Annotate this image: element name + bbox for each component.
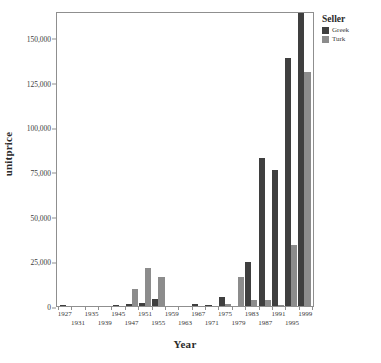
x-tick-label: 1999 — [298, 310, 312, 318]
x-tick-label: 1947 — [125, 319, 139, 327]
x-tick-label: 1927 — [58, 310, 72, 318]
year-group — [298, 13, 311, 306]
x-tick-label: 1975 — [218, 310, 232, 318]
y-tick-label: 25,000 — [30, 258, 51, 267]
legend-label: Turk — [332, 35, 345, 43]
year-group — [139, 13, 152, 306]
x-tick-label: 1963 — [178, 319, 192, 327]
x-tick-label: 1983 — [245, 310, 259, 318]
bar-turk-1975 — [225, 304, 231, 306]
bar-chart: unitprice 025,00050,00075,000100,000125,… — [0, 0, 381, 363]
year-group — [112, 13, 125, 306]
x-axis-title: Year — [56, 338, 314, 350]
bars-layer — [57, 13, 313, 306]
bar-greek-1945 — [113, 305, 119, 306]
x-tick-label: 1945 — [111, 310, 125, 318]
bar-greek-1991 — [272, 170, 278, 306]
year-group — [231, 13, 244, 306]
x-tick-label: 1935 — [84, 310, 98, 318]
legend-entry-turk[interactable]: Turk — [322, 35, 380, 43]
x-tick-label: 1959 — [165, 310, 179, 318]
y-tick-label: 75,000 — [30, 168, 51, 177]
x-tick-label: 1987 — [258, 319, 272, 327]
legend: Seller GreekTurk — [322, 14, 380, 44]
year-group — [192, 13, 205, 306]
y-tick-label: 50,000 — [30, 213, 51, 222]
year-group — [258, 13, 271, 306]
year-group — [59, 13, 72, 306]
legend-swatch-icon — [322, 27, 329, 34]
bar-greek-1967 — [192, 304, 198, 306]
x-axis-tick-labels: 1927193119351939194519471951195519591963… — [56, 307, 314, 339]
bar-turk-1995 — [291, 245, 297, 306]
x-tick-label: 1971 — [205, 319, 219, 327]
year-group — [245, 13, 258, 306]
bar-greek-1971 — [205, 305, 211, 306]
y-tick-label: 0 — [47, 303, 51, 312]
bar-turk-1983 — [251, 300, 257, 306]
legend-swatch-icon — [322, 36, 329, 43]
year-group — [271, 13, 284, 306]
year-group — [125, 13, 138, 306]
year-group — [99, 13, 112, 306]
bar-turk-1979 — [238, 277, 244, 306]
year-group — [205, 13, 218, 306]
x-tick-label: 1939 — [98, 319, 112, 327]
x-tick-label: 1967 — [191, 310, 205, 318]
year-group — [178, 13, 191, 306]
y-tick-label: 150,000 — [27, 34, 51, 43]
year-group — [285, 13, 298, 306]
plot-area — [56, 12, 314, 307]
bar-turk-1951 — [145, 268, 151, 306]
year-group — [165, 13, 178, 306]
legend-entry-greek[interactable]: Greek — [322, 26, 380, 34]
year-group — [218, 13, 231, 306]
x-tick-label: 1955 — [151, 319, 165, 327]
year-group — [86, 13, 99, 306]
y-axis-tick-labels: 025,00050,00075,000100,000125,000150,000 — [0, 12, 56, 307]
legend-entries: GreekTurk — [322, 26, 380, 43]
y-tick-label: 100,000 — [27, 124, 51, 133]
legend-title: Seller — [322, 14, 380, 24]
bar-turk-1955 — [158, 277, 164, 307]
bar-turk-1999 — [304, 72, 310, 306]
x-tick-label: 1995 — [285, 319, 299, 327]
x-tick-label: 1951 — [138, 310, 152, 318]
bar-greek-1987 — [259, 158, 265, 306]
legend-label: Greek — [332, 26, 349, 34]
bar-turk-1987 — [265, 300, 271, 306]
bar-turk-1991 — [278, 305, 284, 306]
y-tick-label: 125,000 — [27, 79, 51, 88]
year-group — [152, 13, 165, 306]
bar-turk-1947 — [132, 289, 138, 306]
x-tick-label: 1979 — [231, 319, 245, 327]
x-tick-label: 1931 — [71, 319, 85, 327]
bar-greek-1927 — [60, 305, 66, 306]
x-tick-label: 1991 — [272, 310, 286, 318]
year-group — [72, 13, 85, 306]
